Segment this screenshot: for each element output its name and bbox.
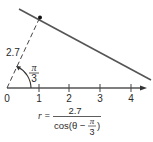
equation-lhs: r =	[38, 111, 50, 121]
angle-numerator: π	[31, 62, 37, 73]
equation-denominator-pi: π	[90, 116, 95, 126]
foot-point	[38, 16, 42, 20]
equation-denominator-prefix: cos(θ −	[54, 120, 86, 131]
distance-label: 2.7	[6, 47, 20, 58]
axis-arrow-icon	[140, 86, 147, 91]
tick-label-0: 0	[4, 93, 10, 104]
tick-label-4: 4	[128, 93, 134, 104]
angle-denominator: 3	[31, 73, 37, 84]
polar-line	[19, 9, 151, 80]
equation-denominator-three: 3	[89, 127, 94, 137]
tick-label-1: 1	[36, 93, 42, 104]
angle-arc	[18, 67, 31, 88]
equation-numerator: 2.7	[68, 105, 81, 116]
polar-diagram: 0 1 2 3 4 2.7 π 3 r = 2.7 cos(θ − π 3 )	[0, 0, 153, 142]
tick-label-3: 3	[97, 93, 103, 104]
equation-denominator-suffix: )	[97, 120, 100, 131]
tick-label-2: 2	[66, 93, 72, 104]
